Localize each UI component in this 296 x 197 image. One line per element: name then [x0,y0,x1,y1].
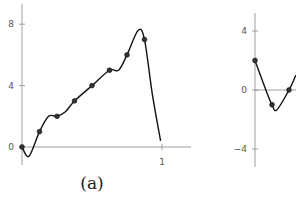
y-tick-label: −4 [234,144,248,154]
chart-a: 048 1 (a) [8,4,191,193]
chart-b-points [253,58,292,107]
chart-b: −404 [234,13,296,167]
data-point [125,53,130,58]
chart-b-y-ticks: −404 [234,26,258,154]
y-tick-label: 4 [241,26,247,36]
chart-a-curve [22,29,161,156]
data-point [270,102,275,107]
x-tick-label: 1 [159,157,165,167]
chart-a-caption: (a) [80,173,103,193]
chart-a-x-ticks: 1 [159,144,165,167]
data-point [142,37,147,42]
y-tick-label: 0 [241,85,247,95]
data-point [107,68,112,73]
data-point [90,83,95,88]
data-point [287,88,292,93]
chart-b-curve [255,61,296,111]
data-point [72,99,77,104]
figure: 048 1 (a) −404 [0,0,296,197]
y-tick-label: 4 [8,81,14,91]
chart-a-y-ticks: 048 [8,19,25,152]
y-tick-label: 8 [8,19,14,29]
data-point [55,114,60,119]
data-point [37,129,42,134]
y-tick-label: 0 [8,142,14,152]
data-point [20,145,25,150]
data-point [253,58,258,63]
